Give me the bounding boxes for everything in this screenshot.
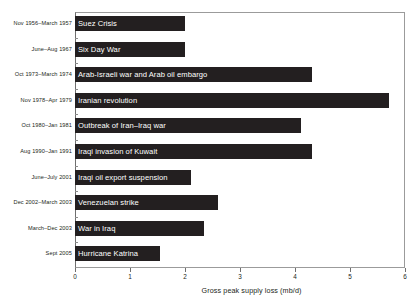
y-axis-tick-mark xyxy=(75,217,78,218)
x-axis-tick-mark xyxy=(130,268,131,272)
bar-row: Iraqi invasion of Kuwait xyxy=(75,140,405,166)
y-axis-tick-label: June–July 2001 xyxy=(0,170,72,185)
y-axis-tick-mark xyxy=(75,38,78,39)
y-axis-tick-label: Dec 2002–March 2003 xyxy=(0,195,72,210)
bar-row: Venezuelan strike xyxy=(75,191,405,217)
horizontal-bar-chart: Nov 1956–March 1957June–Aug 1967Oct 1973… xyxy=(0,0,419,302)
y-axis-tick-label: March–Dec 2003 xyxy=(0,221,72,236)
bars-layer: Suez CrisisSix Day WarArab-Israeli war a… xyxy=(75,12,405,268)
y-axis-tick-label: Sept 2005 xyxy=(0,246,72,261)
bar-row: Six Day War xyxy=(75,38,405,64)
bar-value-label: Six Day War xyxy=(78,42,120,57)
bar-value-label: Iranian revolution xyxy=(78,93,137,108)
x-axis-tick-mark xyxy=(75,268,76,272)
bar-row: Hurricane Katrina xyxy=(75,242,405,268)
x-axis-tick-label: 3 xyxy=(230,273,250,280)
y-axis-tick-label: Oct 1980–Jan 1981 xyxy=(0,118,72,133)
bar-value-label: Hurricane Katrina xyxy=(78,246,138,261)
x-axis-title-text: Gross peak supply loss (mb/d) xyxy=(202,286,302,295)
x-axis-title: Gross peak supply loss (mb/d) xyxy=(0,286,419,295)
bar-value-label: Suez Crisis xyxy=(78,16,117,31)
bar-value-label: Outbreak of Iran–Iraq war xyxy=(78,118,166,133)
bar-row: Iraqi oil export suspension xyxy=(75,166,405,192)
bar-row: Outbreak of Iran–Iraq war xyxy=(75,114,405,140)
bar-row: Suez Crisis xyxy=(75,12,405,38)
y-axis-tick-mark xyxy=(75,114,78,115)
y-axis-tick-label: June–Aug 1967 xyxy=(0,42,72,57)
x-axis-tick-mark xyxy=(240,268,241,272)
bar-value-label: War in Iraq xyxy=(78,221,115,236)
bar-value-label: Venezuelan strike xyxy=(78,195,139,210)
y-axis-tick-label: Oct 1973–March 1974 xyxy=(0,67,72,82)
y-axis-tick-label: Aug 1990–Jan 1991 xyxy=(0,144,72,159)
x-axis-tick-label: 1 xyxy=(120,273,140,280)
x-axis-tick-label: 2 xyxy=(175,273,195,280)
x-axis-tick-label: 0 xyxy=(65,273,85,280)
x-axis-tick-label: 5 xyxy=(340,273,360,280)
x-axis-tick-mark xyxy=(405,268,406,272)
y-axis-tick-mark xyxy=(75,140,78,141)
x-axis-tick-mark xyxy=(350,268,351,272)
x-axis-tick-label: 4 xyxy=(285,273,305,280)
bar-row: Iranian revolution xyxy=(75,89,405,115)
bar-value-label: Iraqi oil export suspension xyxy=(78,170,168,185)
x-axis-tick-mark xyxy=(185,268,186,272)
bar-row: Arab-Israeli war and Arab oil embargo xyxy=(75,63,405,89)
x-axis-tick-label: 6 xyxy=(395,273,415,280)
bar-row: War in Iraq xyxy=(75,217,405,243)
y-axis-tick-mark xyxy=(75,166,78,167)
x-axis: Gross peak supply loss (mb/d) 0123456 xyxy=(0,268,419,302)
y-axis-tick-mark xyxy=(75,89,78,90)
y-axis-category-labels: Nov 1956–March 1957June–Aug 1967Oct 1973… xyxy=(0,12,72,268)
y-axis-tick-mark xyxy=(75,63,78,64)
bar-value-label: Iraqi invasion of Kuwait xyxy=(78,144,157,159)
y-axis-tick-label: Nov 1978–Apr 1979 xyxy=(0,93,72,108)
bar-value-label: Arab-Israeli war and Arab oil embargo xyxy=(78,67,207,82)
x-axis-tick-mark xyxy=(295,268,296,272)
y-axis-tick-label: Nov 1956–March 1957 xyxy=(0,16,72,31)
y-axis-tick-mark xyxy=(75,191,78,192)
y-axis-tick-mark xyxy=(75,242,78,243)
